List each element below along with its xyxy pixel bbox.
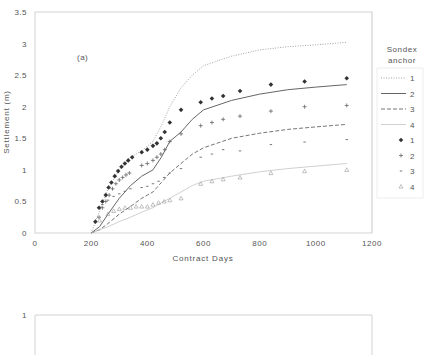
legend-item-label: 4 [410, 121, 415, 130]
legend-item-label: 1 [410, 136, 415, 145]
data-point [145, 204, 149, 208]
y-tick-label: 1 [22, 166, 27, 175]
data-point [93, 219, 98, 224]
x-tick-label: 1200 [362, 239, 382, 248]
data-point [151, 158, 155, 162]
data-point [303, 169, 307, 173]
data-point [140, 163, 144, 167]
series-line-1 [91, 42, 347, 233]
legend-item-marker-2: 2 [399, 152, 415, 161]
legend-marker-swatch [399, 154, 403, 158]
legend-item-marker-3: 3 [400, 167, 415, 176]
data-point [157, 201, 161, 205]
data-point [145, 147, 150, 152]
data-point [345, 103, 349, 107]
y-tick-label: 2 [22, 103, 27, 112]
data-point [345, 168, 349, 172]
data-point [151, 144, 156, 149]
data-point [111, 187, 115, 191]
y-tick-label: 1.5 [14, 134, 27, 143]
x-tick-label: 1000 [306, 239, 326, 248]
settlement-chart: 00.511.522.533.5 020040060080010001200 (… [0, 0, 424, 355]
data-point [238, 89, 243, 94]
y-tick-label: 0 [22, 229, 27, 238]
data-point [210, 121, 214, 125]
data-point [123, 206, 127, 210]
x-tick-label: 800 [252, 239, 267, 248]
legend-item-line-1: 1 [381, 74, 415, 83]
data-point [145, 162, 149, 166]
plot-area-frame [35, 12, 372, 233]
series-markers-3 [101, 140, 348, 205]
data-point [139, 150, 144, 155]
legend-items: 12341234 [381, 74, 415, 192]
data-point [162, 130, 167, 135]
data-point [269, 109, 273, 113]
legend-item-marker-1: 1 [399, 136, 415, 145]
data-point [127, 171, 131, 175]
x-tick-label: 200 [84, 239, 99, 248]
data-point [303, 105, 307, 109]
y-axis-title: Settlement (m) [2, 90, 11, 154]
data-point [302, 79, 307, 84]
y-tick-label: 3.5 [14, 8, 27, 17]
data-point [117, 207, 121, 211]
series-markers-4 [98, 168, 349, 222]
data-point [198, 100, 203, 105]
legend-title-line1: Sondex [387, 45, 418, 54]
data-point [344, 76, 349, 81]
data-point [117, 178, 121, 182]
data-point [121, 175, 125, 179]
data-point [238, 175, 242, 179]
data-point [134, 204, 138, 208]
y-axis-ticks: 00.511.522.533.5 [14, 8, 27, 238]
data-point [151, 203, 155, 207]
series-line-2 [91, 85, 347, 233]
data-point [112, 174, 117, 179]
legend-item-line-4: 4 [381, 121, 415, 130]
data-point [124, 173, 128, 177]
data-point [221, 94, 226, 99]
x-tick-label: 400 [140, 239, 155, 248]
data-point [140, 204, 144, 208]
data-point [109, 180, 114, 185]
legend-item-label: 3 [410, 105, 415, 114]
legend-item-label: 1 [410, 74, 415, 83]
legend-item-label: 2 [410, 90, 415, 99]
series-markers-2 [97, 103, 349, 219]
data-point [179, 108, 184, 113]
legend-marker-swatch [399, 138, 404, 143]
series-markers-1 [93, 76, 349, 224]
data-point [199, 124, 203, 128]
x-axis-title: Contract Days [172, 254, 233, 263]
data-point [107, 193, 111, 197]
data-point [221, 117, 225, 121]
x-tick-label: 0 [33, 239, 38, 248]
panel-label: (a) [77, 53, 88, 62]
data-point [269, 82, 274, 87]
y-tick-label: 3 [22, 40, 27, 49]
data-point [179, 132, 183, 136]
legend-item-marker-4: 4 [399, 183, 415, 192]
legend-box [377, 68, 423, 198]
lower-plot: 1 [22, 311, 372, 355]
legend-item-label: 2 [410, 152, 415, 161]
legend-item-label: 3 [410, 167, 415, 176]
data-point [159, 136, 164, 141]
x-axis-ticks: 020040060080010001200 [33, 239, 382, 248]
data-point [116, 169, 121, 174]
y-tick-label: 0.5 [14, 197, 27, 206]
upper-plot: 00.511.522.533.5 020040060080010001200 (… [2, 8, 382, 263]
legend-title-line2: anchor [388, 56, 416, 65]
data-point [179, 196, 183, 200]
data-point [114, 182, 118, 186]
legend-item-line-2: 2 [381, 90, 415, 99]
data-point [155, 141, 160, 146]
lower-y-tick-1: 1 [22, 311, 27, 320]
legend-marker-swatch [399, 185, 403, 189]
legend-item-label: 4 [410, 183, 415, 192]
data-point [112, 209, 116, 213]
data-point [210, 96, 215, 101]
data-point [238, 114, 242, 118]
legend: Sondex anchor 12341234 [372, 12, 423, 233]
